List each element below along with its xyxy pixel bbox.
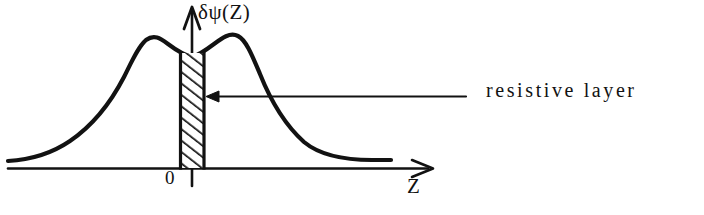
figure-canvas: δψ(Z) Z 0 resistive layer — [0, 0, 704, 215]
y-axis-label: δψ(Z) — [198, 2, 250, 23]
resistive-layer-band — [179, 53, 205, 168]
x-axis-label: Z — [407, 176, 420, 197]
origin-tick-label: 0 — [165, 168, 175, 187]
resistive-layer-annotation-label: resistive layer — [486, 80, 637, 100]
hand-drawn-plot — [0, 0, 704, 215]
arrow-left-icon — [206, 91, 219, 102]
callout-pointer — [206, 91, 466, 102]
x-axis — [8, 160, 433, 177]
